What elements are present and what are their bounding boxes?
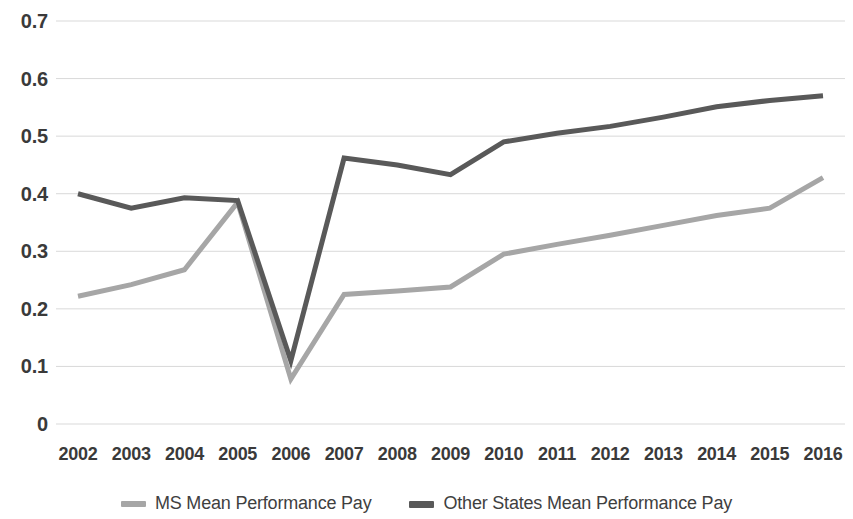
- x-axis-tick-label: 2016: [804, 443, 843, 466]
- y-axis-tick-label: 0.2: [0, 299, 48, 319]
- x-axis-tick-label: 2014: [697, 443, 736, 466]
- chart-plot-area: [0, 0, 853, 519]
- legend-item[interactable]: MS Mean Performance Pay: [121, 493, 372, 515]
- y-axis-tick-label: 0.4: [0, 184, 48, 204]
- x-axis-tick-label: 2006: [271, 443, 310, 466]
- y-axis-tick-label: 0: [0, 414, 48, 434]
- legend-label: MS Mean Performance Pay: [155, 493, 372, 515]
- series-line-2: [78, 96, 823, 361]
- y-axis-tick-label: 0.1: [0, 356, 48, 376]
- legend-swatch-icon: [409, 501, 434, 508]
- y-axis-tick-label: 0.5: [0, 126, 48, 146]
- chart-legend: MS Mean Performance PayOther States Mean…: [0, 489, 853, 519]
- x-axis: 2002200320042005200620072008200920102011…: [0, 443, 853, 473]
- legend-swatch-icon: [121, 501, 146, 507]
- x-axis-tick-label: 2012: [591, 443, 630, 466]
- legend-item[interactable]: Other States Mean Performance Pay: [409, 493, 732, 515]
- y-axis-tick-label: 0.3: [0, 241, 48, 261]
- x-axis-tick-label: 2005: [218, 443, 257, 466]
- y-axis-tick-label: 0.6: [0, 69, 48, 89]
- x-axis-tick-label: 2010: [484, 443, 523, 466]
- x-axis-tick-label: 2011: [538, 443, 576, 466]
- x-axis-tick-label: 2015: [750, 443, 789, 466]
- x-axis-tick-label: 2013: [644, 443, 683, 466]
- series-lines: [78, 96, 823, 379]
- line-chart: 00.10.20.30.40.50.60.7 20022003200420052…: [0, 0, 853, 519]
- series-line-1: [78, 178, 823, 380]
- gridlines: [56, 21, 845, 424]
- x-axis-tick-label: 2003: [112, 443, 151, 466]
- legend-label: Other States Mean Performance Pay: [443, 493, 732, 515]
- y-axis: 00.10.20.30.40.50.60.7: [0, 0, 48, 440]
- x-axis-tick-label: 2002: [59, 443, 98, 466]
- x-axis-tick-label: 2004: [165, 443, 204, 466]
- y-axis-tick-label: 0.7: [0, 11, 48, 31]
- x-axis-tick-label: 2007: [325, 443, 364, 466]
- x-axis-tick-label: 2008: [378, 443, 417, 466]
- x-axis-tick-label: 2009: [431, 443, 470, 466]
